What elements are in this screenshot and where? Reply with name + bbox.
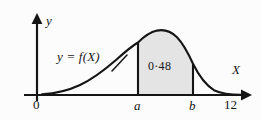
x-axis-label: X xyxy=(232,63,240,76)
x-tick-label-origin: 0 xyxy=(33,98,40,111)
distribution-figure: y X y = f(X) 0·48 0 a b 12 xyxy=(0,0,261,120)
shaded-area-value-label: 0·48 xyxy=(148,60,171,72)
curve-equation-label: y = f(X) xyxy=(57,50,100,63)
x-tick-label-max: 12 xyxy=(224,98,237,111)
x-tick-label-b: b xyxy=(189,99,196,112)
x-tick-label-a: a xyxy=(134,99,141,112)
x-axis-arrowhead xyxy=(241,90,252,101)
y-axis-label: y xyxy=(46,14,52,27)
y-axis-arrowhead xyxy=(32,13,43,24)
